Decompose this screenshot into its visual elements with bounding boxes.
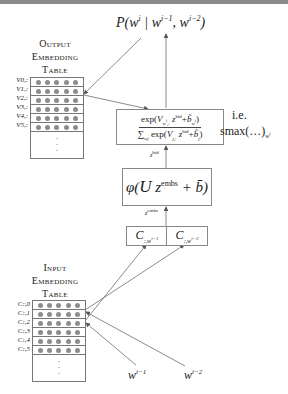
- context-label-2: C:,wi−2: [176, 228, 199, 243]
- input-word-prev1: wi−1: [128, 368, 146, 383]
- output-row-labels: V0,: V1,: V2,: V3,: V4,: V5,:: [10, 76, 28, 130]
- dot-icon: [36, 116, 41, 121]
- table-row: [33, 328, 85, 337]
- row-label: C:,3: [10, 327, 30, 336]
- dot-icon: [56, 348, 61, 353]
- dot-icon: [64, 80, 69, 85]
- dot-icon: [45, 107, 50, 112]
- row-label: C:,5: [10, 345, 30, 354]
- table-row: [31, 123, 83, 132]
- dot-icon: [73, 125, 78, 130]
- table-row: [31, 114, 83, 123]
- hidden-formula: φ(U zembs + b̄): [126, 177, 208, 197]
- row-label: V3,:: [10, 103, 28, 112]
- dot-icon: [36, 89, 41, 94]
- dot-icon: [45, 89, 50, 94]
- input-title-line-1: Input: [20, 261, 90, 274]
- output-title-line-1: Output: [20, 37, 90, 50]
- context-label-1: C:,wi−1: [136, 228, 159, 243]
- output-title-line-3: Table: [20, 63, 90, 76]
- dot-icon: [45, 80, 50, 85]
- input-word-prev2: wi−2: [184, 368, 202, 383]
- dot-icon: [38, 330, 43, 335]
- dot-icon: [54, 98, 59, 103]
- input-table-title: Input Embedding Table: [20, 261, 90, 300]
- dot-icon: [47, 330, 52, 335]
- dot-icon: [56, 321, 61, 326]
- table-row: [31, 96, 83, 105]
- dot-icon: [38, 303, 43, 308]
- table-ellipsis: ···: [31, 132, 83, 158]
- input-embedding-table: ···: [32, 300, 86, 382]
- dot-icon: [47, 348, 52, 353]
- input-row-labels: C:,0 C:,1 C:,2 C:,3 C:,4 C:,5: [10, 300, 30, 354]
- table-row: [31, 105, 83, 114]
- table-ellipsis: ···: [33, 355, 85, 381]
- dot-icon: [73, 98, 78, 103]
- z-hid-label: zhid: [150, 150, 159, 158]
- softmax-box: exp(Vwi,: zhid+b̃wi) ∑wj exp(Vj,: zhid+b…: [116, 109, 224, 145]
- dot-icon: [64, 125, 69, 130]
- table-row: [33, 310, 85, 319]
- dot-icon: [73, 89, 78, 94]
- softmax-numerator: exp(Vwi,: zhid+b̃wi): [139, 114, 201, 128]
- softmax-denominator: ∑wj exp(Vj,: zhid+b̃j): [137, 128, 202, 141]
- dot-icon: [66, 312, 71, 317]
- dot-icon: [36, 125, 41, 130]
- dot-icon: [75, 321, 80, 326]
- dot-icon: [54, 116, 59, 121]
- dot-icon: [64, 107, 69, 112]
- table-row: [33, 346, 85, 355]
- ie-label: i.e.: [232, 108, 247, 123]
- row-label: C:,4: [10, 336, 30, 345]
- table-row: [31, 78, 83, 87]
- row-label: C:,0: [10, 300, 30, 309]
- table-row: [33, 319, 85, 328]
- dot-icon: [64, 89, 69, 94]
- dot-icon: [54, 125, 59, 130]
- dot-icon: [47, 303, 52, 308]
- dot-icon: [75, 348, 80, 353]
- dot-icon: [38, 312, 43, 317]
- dot-icon: [54, 107, 59, 112]
- dot-icon: [73, 80, 78, 85]
- dot-icon: [36, 107, 41, 112]
- input-title-line-3: Table: [20, 287, 90, 300]
- dot-icon: [38, 348, 43, 353]
- dot-icon: [45, 125, 50, 130]
- dot-icon: [38, 339, 43, 344]
- dot-icon: [36, 80, 41, 85]
- row-label: V0,:: [10, 76, 28, 85]
- z-embs-label: zembs: [145, 208, 158, 216]
- output-table-title: Output Embedding Table: [20, 37, 90, 76]
- dot-icon: [47, 339, 52, 344]
- probability-label: P(wi | wi−1, wi−2): [116, 14, 205, 31]
- dot-icon: [66, 321, 71, 326]
- dot-icon: [75, 303, 80, 308]
- dot-icon: [75, 330, 80, 335]
- table-row: [31, 87, 83, 96]
- output-title-line-2: Embedding: [20, 50, 90, 63]
- context-box-wi-1: C:,wi−1: [126, 226, 168, 246]
- table-row: [33, 301, 85, 310]
- dot-icon: [45, 98, 50, 103]
- row-label: V4,:: [10, 112, 28, 121]
- dot-icon: [56, 330, 61, 335]
- dot-icon: [66, 330, 71, 335]
- dot-icon: [73, 116, 78, 121]
- dot-icon: [64, 116, 69, 121]
- dot-icon: [56, 303, 61, 308]
- dot-icon: [54, 89, 59, 94]
- output-embedding-table: ···: [30, 77, 84, 159]
- dot-icon: [56, 312, 61, 317]
- table-row: [33, 337, 85, 346]
- dot-icon: [38, 321, 43, 326]
- dot-icon: [54, 80, 59, 85]
- row-label: V5,:: [10, 121, 28, 130]
- row-label: V1,:: [10, 85, 28, 94]
- row-label: C:,1: [10, 309, 30, 318]
- dot-icon: [56, 339, 61, 344]
- input-title-line-2: Embedding: [20, 274, 90, 287]
- smax-label: smax(…)wi: [220, 124, 271, 139]
- dot-icon: [66, 339, 71, 344]
